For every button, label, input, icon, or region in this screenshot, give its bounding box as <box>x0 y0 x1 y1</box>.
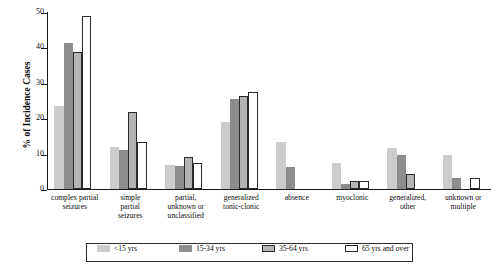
legend-swatch <box>262 245 275 252</box>
bar <box>286 167 295 189</box>
legend-swatch <box>345 245 358 252</box>
bar <box>184 157 193 189</box>
bar <box>165 165 174 189</box>
bar <box>276 142 285 189</box>
bar <box>230 99 239 189</box>
y-axis-tick-label: 0 <box>22 184 44 193</box>
bar <box>175 166 184 189</box>
bar <box>359 181 368 189</box>
y-axis-tick-label: 20 <box>22 113 44 122</box>
bar <box>341 184 350 189</box>
bar <box>193 163 202 189</box>
bar-group <box>387 12 424 189</box>
bar <box>470 178 479 189</box>
bar-group <box>332 12 369 189</box>
bar <box>452 178 461 189</box>
legend-label: 65 yrs and over <box>362 244 409 253</box>
y-axis-tick-label: 30 <box>22 78 44 87</box>
bar <box>397 155 406 189</box>
plot-area: 01020304050 <box>47 12 491 190</box>
legend-label: 35-64 yrs <box>279 244 308 253</box>
bar-group <box>165 12 202 189</box>
bar <box>64 43 73 189</box>
bar <box>350 181 359 189</box>
y-axis-tick-label: 50 <box>22 7 44 16</box>
bar <box>443 155 452 189</box>
y-axis-line <box>47 12 48 190</box>
x-axis-category-label: unknown or multiple <box>430 193 498 211</box>
legend: <15 yrs15-34 yrs35-64 yrs65 yrs and over <box>86 243 413 262</box>
bar-group <box>54 12 91 189</box>
legend-item: <15 yrs <box>97 244 137 253</box>
bar <box>119 150 128 189</box>
bar <box>54 106 63 189</box>
bar-group <box>221 12 258 189</box>
bar <box>73 52 82 189</box>
bar <box>248 92 257 189</box>
bar-chart: % of Incidence Cases 01020304050 complex… <box>0 0 499 271</box>
legend-item: 15-34 yrs <box>179 244 225 253</box>
legend-item: 65 yrs and over <box>345 244 409 253</box>
bar-group <box>110 12 147 189</box>
bar <box>406 174 415 189</box>
bar <box>128 112 137 189</box>
bar <box>332 163 341 189</box>
legend-swatch <box>179 245 192 252</box>
y-axis-tick-label: 10 <box>22 149 44 158</box>
bar <box>137 142 146 189</box>
bar-group <box>276 12 313 189</box>
bar <box>239 96 248 189</box>
legend-label: <15 yrs <box>114 244 137 253</box>
y-axis-tick-label: 40 <box>22 42 44 51</box>
bar-group <box>443 12 480 189</box>
legend-label: 15-34 yrs <box>196 244 225 253</box>
legend-item: 35-64 yrs <box>262 244 308 253</box>
bar <box>82 16 91 189</box>
bar <box>110 147 119 189</box>
legend-swatch <box>97 245 110 252</box>
bar <box>221 122 230 189</box>
bar <box>387 148 396 189</box>
